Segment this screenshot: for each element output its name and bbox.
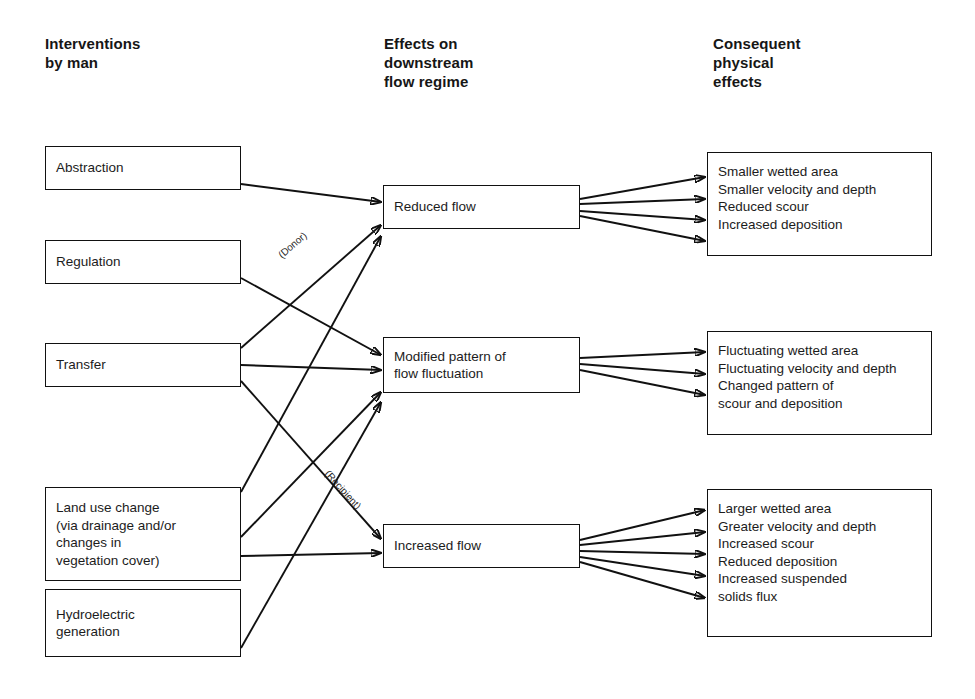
edge-modified-pattern-to-consequence-1 [580,352,705,358]
edge-land-use-to-reduced-flow [241,236,381,492]
edge-reduced-flow-to-consequence-2 [580,199,705,204]
consequence-line: Increased suspended [718,570,921,588]
column-heading-effects: Effects on downstream flow regime [384,34,473,91]
node-consequences-modified-pattern[interactable]: Fluctuating wetted area Fluctuating velo… [707,331,932,435]
edge-increased-flow-to-consequence-4 [580,557,705,576]
node-transfer[interactable]: Transfer [45,343,241,387]
consequence-line: Increased scour [718,535,921,553]
edge-land-use-to-increased-flow [241,553,381,556]
edge-transfer-to-modified-pattern [241,365,381,370]
node-reduced-flow[interactable]: Reduced flow [383,185,580,229]
consequence-line: solids flux [718,588,921,606]
edge-land-use-to-modified-pattern [241,392,381,537]
edge-label-donor: (Donor) [276,230,309,261]
edge-increased-flow-to-consequence-5 [580,562,705,598]
edge-increased-flow-to-consequence-1 [580,510,705,540]
consequence-line: Smaller velocity and depth [718,181,921,199]
edge-transfer-to-increased-flow-recipient [241,381,381,539]
edge-reduced-flow-to-consequence-4 [580,216,705,241]
consequence-line: Fluctuating wetted area [718,342,921,360]
node-land-use-change[interactable]: Land use change (via drainage and/or cha… [45,487,241,581]
edge-modified-pattern-to-consequence-3 [580,370,705,395]
node-hydroelectric-generation[interactable]: Hydroelectric generation [45,589,241,657]
diagram-canvas: Interventions by man Effects on downstre… [0,0,975,699]
node-consequences-increased-flow[interactable]: Larger wetted area Greater velocity and … [707,489,932,637]
consequence-line: Greater velocity and depth [718,518,921,536]
column-heading-interventions: Interventions by man [45,34,140,72]
edge-transfer-to-reduced-flow-donor [241,225,381,348]
edge-reduced-flow-to-consequence-3 [580,211,705,220]
edge-abstraction-to-reduced-flow [241,184,381,202]
consequence-line: Changed pattern of [718,377,921,395]
consequence-line: Larger wetted area [718,500,921,518]
edge-regulation-to-modified-pattern [241,278,381,355]
node-consequences-reduced-flow[interactable]: Smaller wetted area Smaller velocity and… [707,152,932,256]
node-regulation[interactable]: Regulation [45,240,241,284]
consequence-line: Reduced scour [718,198,921,216]
edge-modified-pattern-to-consequence-2 [580,364,705,374]
consequence-line: Reduced deposition [718,553,921,571]
column-heading-consequent: Consequent physical effects [713,34,801,91]
edge-increased-flow-to-consequence-2 [580,532,705,545]
consequence-line: Fluctuating velocity and depth [718,360,921,378]
consequence-line: Smaller wetted area [718,163,921,181]
consequence-line: scour and deposition [718,395,921,413]
edge-hydroelectric-to-modified-pattern [241,402,381,648]
node-abstraction[interactable]: Abstraction [45,146,241,190]
node-modified-pattern-of-flow-fluctuation[interactable]: Modified pattern of flow fluctuation [383,337,580,393]
edge-reduced-flow-to-consequence-1 [580,177,705,199]
edge-label-recipient: (Recipient) [323,468,364,511]
node-increased-flow[interactable]: Increased flow [383,524,580,568]
edge-increased-flow-to-consequence-3 [580,551,705,554]
consequence-line: Increased deposition [718,216,921,234]
